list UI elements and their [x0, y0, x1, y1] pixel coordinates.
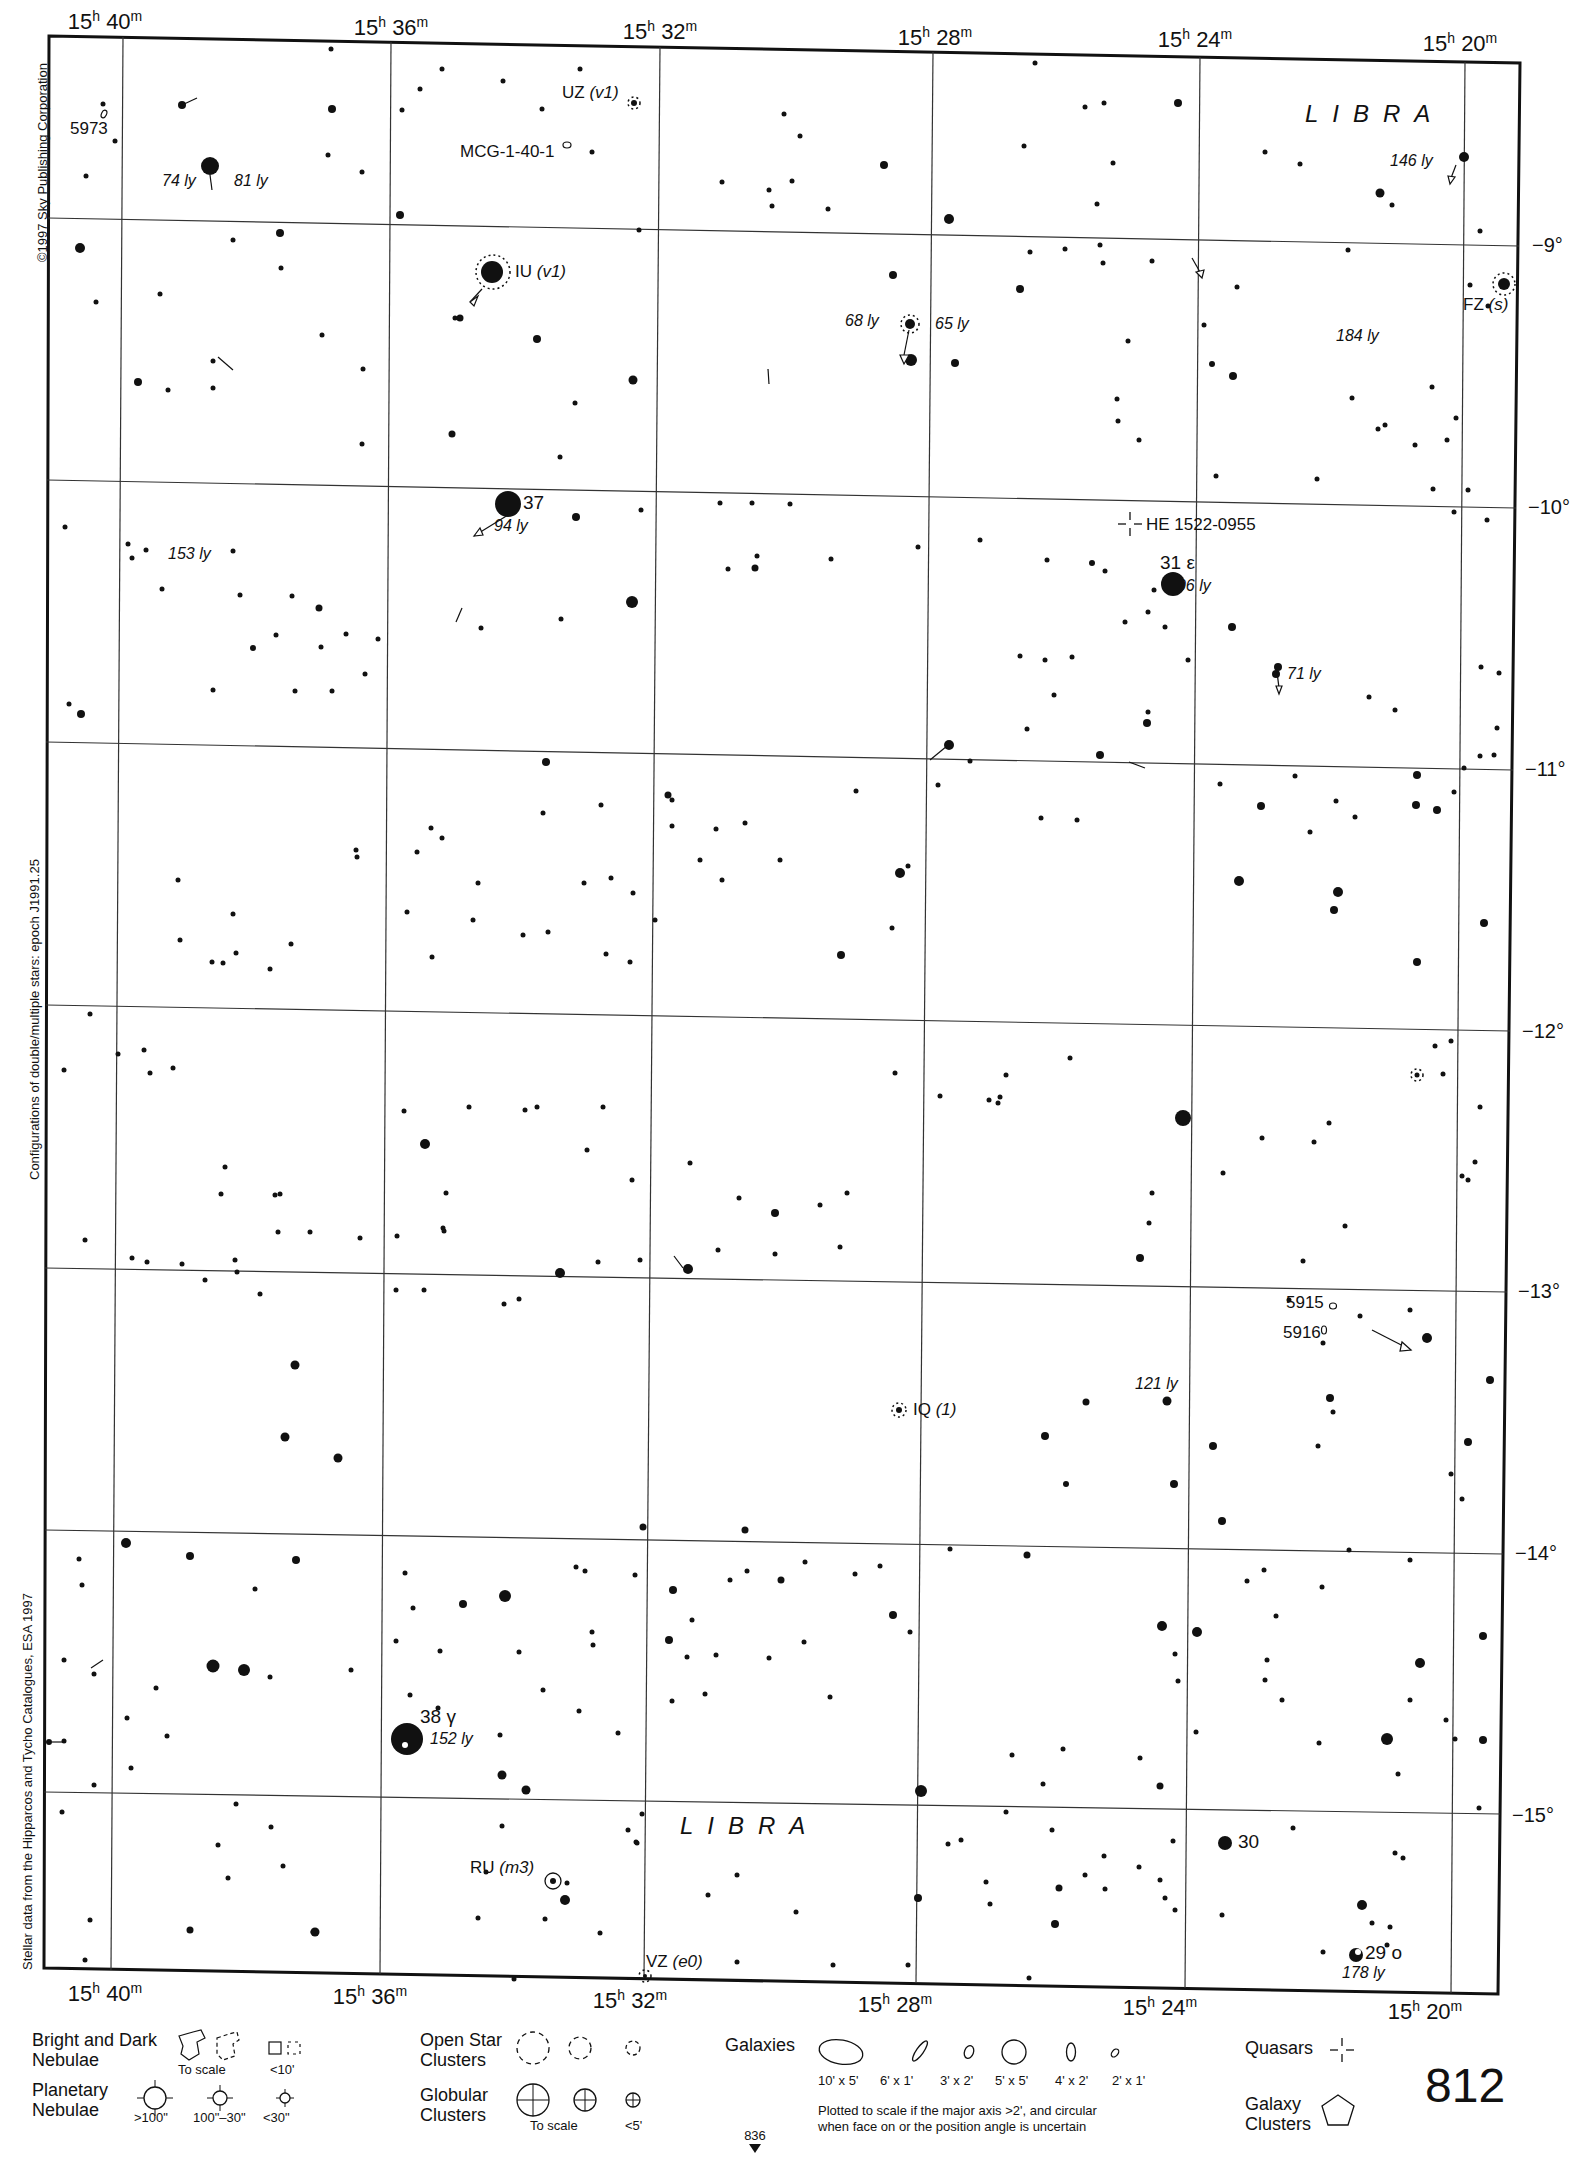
ra-label-top-1528: 15h 28m: [898, 24, 973, 51]
dec-label-9: −9°: [1532, 234, 1563, 257]
stars: [46, 47, 1510, 1982]
ra-label-bottom-1532: 15h 32m: [593, 1987, 668, 2014]
dec-label-15: −15°: [1512, 1804, 1554, 1827]
galaxy-symbols: [815, 2034, 1145, 2074]
constellation-label-top: LIBRA: [1305, 100, 1444, 128]
globular-cluster-symbols: [515, 2082, 645, 2122]
galaxy-markers: [100, 109, 1336, 1334]
star-31-epsilon-label: 31 ε: [1160, 552, 1195, 574]
star-29-omicron-label: 29 ο: [1365, 1942, 1402, 1964]
galaxy-cap-3: 3' x 2': [940, 2073, 973, 2088]
legend-nebulae-title: Bright and Dark Nebulae: [32, 2030, 157, 2070]
ra-label-bottom-1520: 15h 20m: [1388, 1998, 1463, 2025]
planetary-cap-small: <30": [263, 2110, 290, 2125]
quasar-symbol: [1328, 2036, 1356, 2064]
nebula-cap-scale: To scale: [178, 2062, 226, 2077]
open-cluster-symbols: [515, 2030, 645, 2070]
dec-grid: [44, 218, 1519, 1814]
dec-label-12: −12°: [1522, 1020, 1564, 1043]
ra-label-top-1520: 15h 20m: [1423, 30, 1498, 57]
galaxy-cap-1: 10' x 5': [818, 2073, 858, 2088]
quasar-marker: [1118, 512, 1142, 536]
next-page-link[interactable]: 836: [740, 2128, 770, 2153]
legend-open-cluster-title: Open Star Clusters: [420, 2030, 502, 2070]
distance-184ly: 184 ly: [1336, 327, 1379, 345]
distance-94ly: 94 ly: [494, 517, 528, 535]
epoch-note: Configurations of double/multiple stars:…: [27, 859, 42, 1180]
dec-label-14: −14°: [1515, 1542, 1557, 1565]
ra-label-bottom-1528: 15h 28m: [858, 1991, 933, 2018]
ra-label-top-1524: 15h 24m: [1158, 26, 1233, 53]
galaxy-cluster-symbol: [1320, 2093, 1356, 2127]
legend-galaxies-title: Galaxies: [725, 2035, 795, 2055]
distance-65ly: 65 ly: [935, 315, 969, 333]
next-page-number: 836: [740, 2128, 770, 2143]
star-30-label: 30: [1238, 1831, 1259, 1853]
quasar-label: HE 1522-0955: [1146, 515, 1256, 535]
galaxy-cap-5: 4' x 2': [1055, 2073, 1088, 2088]
distance-106ly: 106 ly: [1168, 577, 1211, 595]
planetary-cap-medium: 100"–30": [193, 2110, 246, 2125]
ra-label-top-1540: 15h 40m: [68, 8, 143, 35]
distance-81ly: 81 ly: [234, 172, 268, 190]
uz-label: UZ (v1): [562, 83, 619, 103]
dec-label-11: −11°: [1525, 758, 1565, 781]
iq-label: IQ (1): [913, 1400, 956, 1420]
ru-label: RU (m3): [470, 1858, 534, 1878]
ra-label-bottom-1524: 15h 24m: [1123, 1994, 1198, 2021]
fz-label: FZ (s): [1463, 295, 1508, 315]
star-37-label: 37: [523, 492, 544, 514]
mcg-label: MCG-1-40-1: [460, 142, 554, 162]
ngc5915-label: 5915: [1286, 1293, 1324, 1313]
ra-label-top-1532: 15h 32m: [623, 18, 698, 45]
vz-label: VZ (e0): [646, 1952, 703, 1972]
galaxy-cap-4: 5' x 5': [995, 2073, 1028, 2088]
down-arrow-icon: [749, 2144, 761, 2153]
legend-planetary-title: Planetary Nebulae: [32, 2080, 108, 2120]
distance-178ly: 178 ly: [1342, 1964, 1385, 1982]
globular-cap-scale: To scale: [530, 2118, 578, 2133]
distance-121ly: 121 ly: [1135, 1375, 1178, 1393]
iu-label: IU (v1): [515, 262, 566, 282]
ra-grid: [111, 37, 1465, 1993]
planetary-cap-large: >100": [134, 2110, 168, 2125]
distance-152ly: 152 ly: [430, 1730, 473, 1748]
legend-galaxy-clusters-title: Galaxy Clusters: [1245, 2094, 1311, 2134]
galaxy-cap-6: 2' x 1': [1112, 2073, 1145, 2088]
distance-153ly: 153 ly: [168, 545, 211, 563]
ngc5973-label: 5973: [70, 119, 108, 139]
legend-globular-title: Globular Clusters: [420, 2085, 488, 2125]
ra-label-top-1536: 15h 36m: [354, 14, 429, 41]
dec-label-10: −10°: [1528, 496, 1570, 519]
star-38-gamma-label: 38 γ: [420, 1706, 456, 1728]
distance-74ly: 74 ly: [162, 172, 196, 190]
galaxy-note: Plotted to scale if the major axis >2', …: [818, 2103, 1097, 2135]
dec-label-13: −13°: [1518, 1280, 1560, 1303]
distance-146ly: 146 ly: [1390, 152, 1433, 170]
legend-quasars-title: Quasars: [1245, 2038, 1313, 2058]
globular-cap-small: <5': [625, 2118, 642, 2133]
chart-frame: [44, 36, 1520, 1994]
ngc5916-label: 5916: [1283, 1323, 1321, 1343]
nebula-cap-small: <10': [270, 2062, 295, 2077]
page-number: 812: [1425, 2058, 1505, 2113]
ra-label-bottom-1536: 15h 36m: [333, 1983, 408, 2010]
ra-label-bottom-1540: 15h 40m: [68, 1980, 143, 2007]
galaxy-cap-2: 6' x 1': [880, 2073, 913, 2088]
distance-68ly: 68 ly: [845, 312, 879, 330]
copyright-text: ©1997 Sky Publishing Corporation: [35, 63, 50, 262]
constellation-label-bottom: LIBRA: [680, 1812, 819, 1840]
proper-motion-arrows: [52, 98, 1456, 1742]
distance-71ly: 71 ly: [1287, 665, 1321, 683]
star-chart: [0, 0, 1586, 2172]
hipparcos-note: Stellar data from the Hipparcos and Tych…: [20, 1593, 35, 1970]
